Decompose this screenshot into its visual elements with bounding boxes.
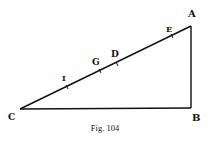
label-I: I [62, 73, 66, 83]
segment-CA [20, 26, 191, 109]
label-B: B [192, 112, 200, 123]
label-C: C [8, 112, 15, 122]
label-A: A [187, 8, 196, 19]
triangle-diagram: A E D G I C B Fig. 104 [0, 0, 213, 144]
label-E: E [166, 24, 172, 34]
label-G: G [92, 57, 100, 67]
figure-caption: Fig. 104 [91, 123, 120, 133]
segment-CB [20, 108, 191, 109]
label-D: D [111, 49, 119, 59]
